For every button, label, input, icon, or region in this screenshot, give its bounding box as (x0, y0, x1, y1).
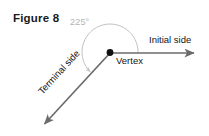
figure-caption: Figure 8 (13, 13, 59, 25)
angle-measure-label: 225° (70, 18, 89, 27)
initial-side-label: Initial side (149, 35, 191, 45)
vertex-point (107, 49, 114, 56)
figure-panel: Figure 8 225° Initial side Vertex Termin… (0, 0, 209, 136)
terminal-side-ray (45, 53, 111, 124)
vertex-label: Vertex (116, 56, 143, 66)
